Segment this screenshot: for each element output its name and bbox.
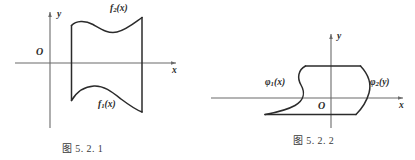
label-phi1-arg: (x) bbox=[274, 77, 285, 87]
x-axis-label-right: x bbox=[399, 101, 404, 111]
curve-phi2-right bbox=[356, 66, 370, 115]
y-axis-label-right: y bbox=[337, 32, 341, 42]
label-f1-arg: (x) bbox=[105, 99, 116, 109]
figure-5-2-1-graphic bbox=[0, 0, 205, 160]
origin-label-right: O bbox=[318, 101, 325, 111]
figure-5-2-1: y x O f2(x) f1(x) 图 5. 2. 1 bbox=[0, 0, 205, 160]
label-phi2: φ2(y) bbox=[370, 78, 390, 88]
caption-figure-5-2-2: 图 5. 2. 2 bbox=[293, 132, 334, 147]
label-f2: f2(x) bbox=[110, 4, 128, 14]
label-f2-arg: (x) bbox=[117, 3, 128, 13]
figure-5-2-2: y x O φ1(x) φ2(y) 图 5. 2. 2 bbox=[205, 0, 415, 160]
origin-label-left: O bbox=[36, 47, 43, 57]
label-phi1: φ1(x) bbox=[265, 78, 285, 88]
x-axis-left bbox=[15, 61, 176, 65]
x-axis-right bbox=[211, 96, 403, 100]
curve-f2-upper bbox=[72, 18, 143, 33]
figure-board: y x O f2(x) f1(x) 图 5. 2. 1 bbox=[0, 0, 415, 160]
x-axis-label-left: x bbox=[172, 66, 177, 76]
y-axis-left bbox=[48, 12, 52, 128]
caption-figure-5-2-1: 图 5. 2. 1 bbox=[62, 140, 103, 155]
label-f1: f1(x) bbox=[98, 100, 116, 110]
curve-phi1-left bbox=[265, 66, 306, 115]
label-phi2-arg: (y) bbox=[379, 77, 390, 87]
y-axis-label-left: y bbox=[57, 10, 61, 20]
